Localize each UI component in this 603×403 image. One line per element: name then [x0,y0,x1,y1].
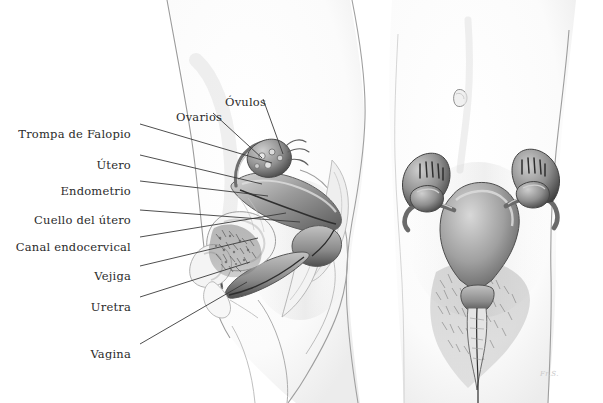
label-uretra: Uretra [91,300,131,314]
label-ovulos: Óvulos [225,95,266,109]
illustration-artwork [0,0,603,403]
label-vejiga: Vejiga [94,269,131,283]
label-trompa-de-falopio: Trompa de Falopio [18,127,131,141]
frontal-view [389,0,576,403]
label-endometrio: Endometrio [60,184,131,198]
artist-signature: Fr.S. [540,370,559,378]
anatomy-illustration: OvariosÓvulosTrompa de FalopioÚteroEndom… [0,0,603,403]
label-canal-endocervical: Canal endocervical [16,240,131,254]
label-ovarios: Ovarios [176,110,222,124]
label-cuello-del-utero: Cuello del útero [34,213,131,227]
label-utero: Útero [96,158,131,172]
label-vagina: Vagina [90,347,131,361]
